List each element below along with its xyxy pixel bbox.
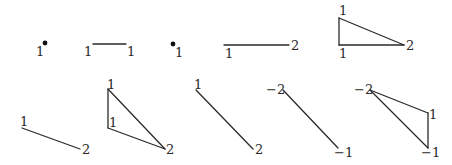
vertex-label: 2: [291, 38, 299, 53]
vertex-label: 1: [109, 115, 117, 130]
vertex-label: 1: [36, 44, 44, 59]
complex-triangle-d5: 112: [339, 3, 414, 61]
vertex-label: 1: [225, 46, 233, 61]
vertex-label: 1: [175, 45, 183, 60]
complex-triangle-d7: 112: [107, 77, 174, 157]
vertex-label: 1: [127, 44, 135, 59]
vertex-label: −1: [421, 145, 440, 160]
vertex-label: 2: [166, 142, 174, 157]
vertex-label: 1: [20, 114, 28, 129]
edge: [283, 90, 338, 148]
complex-point-d3: 1: [171, 42, 184, 60]
complex-point-d1: 1: [36, 41, 47, 59]
complex-segment-d4: 12: [224, 38, 299, 61]
vertex-label: 1: [339, 3, 347, 18]
edge: [370, 90, 428, 148]
edge: [22, 128, 80, 149]
edge: [108, 128, 165, 149]
complex-segment-d2: 11: [84, 44, 135, 59]
complex-segment-d9: −2−1: [266, 82, 353, 160]
edge: [370, 90, 428, 113]
vertex-label: 1: [84, 44, 92, 59]
vertex-label: −2: [266, 82, 285, 97]
edge: [196, 90, 253, 149]
vertex-label: 2: [406, 38, 414, 53]
vertex-label: −1: [334, 145, 353, 160]
complex-segment-d8: 12: [194, 77, 263, 157]
complex-triangle-d10: −21−1: [354, 82, 440, 160]
vertex-label: 1: [339, 46, 347, 61]
vertex-label: 1: [107, 77, 115, 92]
vertex-label: 2: [255, 142, 263, 157]
vertex-label: 1: [194, 77, 202, 92]
vertex-label: 1: [429, 107, 437, 122]
complex-segment-d6: 12: [20, 114, 90, 157]
edge: [339, 18, 404, 45]
diagram-canvas: 1111121121211212−2−1−21−1: [0, 0, 452, 165]
vertex-label: 2: [82, 142, 90, 157]
vertex-label: −2: [354, 82, 373, 97]
